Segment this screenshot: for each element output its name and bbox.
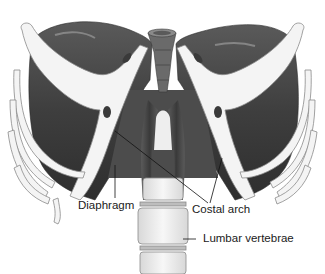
label-lumbar-vertebrae: Lumbar vertebrae [203,233,294,245]
esophagus [148,29,176,92]
label-diaphragm: Diaphragm [78,200,134,212]
label-costal-arch: Costal arch [192,204,250,216]
lumbar-vertebrae [138,178,188,274]
